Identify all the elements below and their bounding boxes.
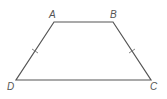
trapezoid-diagram: A B C D [0, 0, 167, 99]
congruence-tick-ad [32, 49, 38, 53]
congruence-tick-bc [129, 49, 135, 53]
vertex-label-c: C [150, 81, 158, 92]
vertex-label-a: A [48, 9, 56, 20]
trapezoid-abcd [16, 22, 151, 80]
vertex-label-d: D [7, 81, 14, 92]
vertex-label-b: B [110, 9, 117, 20]
